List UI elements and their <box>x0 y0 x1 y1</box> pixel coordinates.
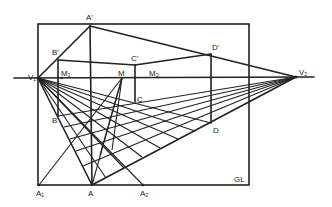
label-a1: A₁ <box>36 190 44 198</box>
point-v2 <box>295 76 298 79</box>
label-b-prime: B' <box>52 49 59 57</box>
grid-lines-v1 <box>38 78 195 178</box>
horizon-line <box>14 77 314 78</box>
point-a1 <box>38 184 41 187</box>
label-m2: M₂ <box>149 70 159 78</box>
label-c: C <box>137 96 143 104</box>
label-v2: V₂ <box>299 69 307 77</box>
label-a: A <box>88 190 93 198</box>
point-v1 <box>37 77 40 80</box>
label-d-prime: D' <box>212 44 219 52</box>
label-c-prime: C' <box>131 55 138 63</box>
label-m: M <box>118 70 125 78</box>
edge-cprime-dprime <box>135 54 211 65</box>
label-b: B <box>52 117 57 125</box>
label-d: D <box>213 127 219 135</box>
point-a2 <box>142 184 145 187</box>
label-ground-line: GL <box>234 176 245 184</box>
label-a2: A₂ <box>140 190 148 198</box>
label-v1: V₁ <box>28 74 36 82</box>
diagram-canvas <box>0 0 332 207</box>
perspective-diagram: A' B' C' D' V₁ V₂ M₁ M M₂ B C D A A₁ A₂ … <box>0 0 332 207</box>
vertical-a <box>90 26 92 185</box>
grid-lines-v2 <box>64 77 296 166</box>
measure-a1-v1 <box>39 78 122 185</box>
label-m1: M₁ <box>61 70 70 78</box>
label-a-prime: A' <box>86 14 93 22</box>
edge-bprime-cprime <box>58 60 135 65</box>
